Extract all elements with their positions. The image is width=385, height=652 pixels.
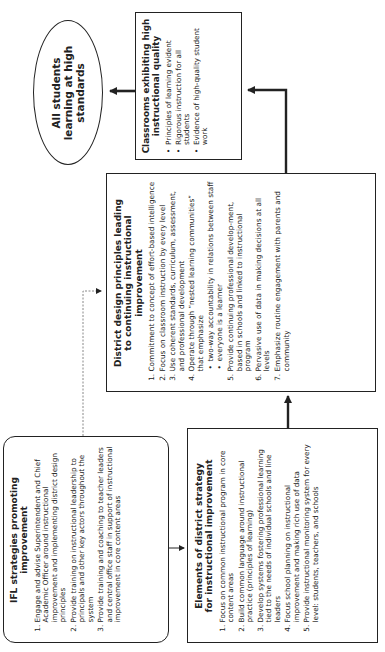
list-item-text: Operate through “nested learning communi… (187, 194, 205, 371)
elements-node: Elements of district strategy for instru… (187, 428, 378, 643)
sub-bullet: two-way accountability in relations betw… (207, 180, 216, 361)
classrooms-node: Classrooms exhibiting high instructional… (135, 12, 242, 160)
arrow-district-to-classrooms (248, 90, 286, 173)
list-item: Focus on classroom instruction by every … (159, 180, 168, 371)
list-item: Develop systems fostering professional l… (256, 435, 281, 622)
district-sub-bullets: two-way accountability in relations betw… (207, 180, 225, 371)
goal-title: All students learning at high standards (50, 23, 86, 163)
district-node: District design principles leading to co… (106, 173, 376, 392)
list-item: Provide training on instructional leader… (70, 443, 95, 622)
ifl-node: IFL strategies promoting improvement Eng… (3, 436, 169, 643)
list-item: Engage and advise Superintendent and Chi… (34, 443, 68, 622)
ifl-items: Engage and advise Superintendent and Chi… (34, 443, 123, 636)
list-item: Focus on common instructional program in… (218, 435, 235, 622)
arrow-ifl-to-district-dotted (83, 291, 101, 436)
list-item: Focus school planning on instructional i… (283, 435, 300, 622)
classrooms-title: Classrooms exhibiting high instructional… (140, 17, 160, 155)
list-item: Build common language around instruction… (237, 435, 254, 622)
list-item: Evidence of high-quality student work (192, 17, 209, 145)
list-item: Provide training and coaching to teacher… (97, 443, 122, 622)
list-item: Use coherent standards, curriculum, asse… (169, 180, 186, 371)
sub-bullet: everyone is a learner (216, 180, 225, 361)
goal-node: All students learning at high standards (33, 20, 103, 165)
list-item: Commitment to concept of effort-based in… (148, 180, 157, 371)
district-items: Commitment to concept of effort-based in… (148, 180, 291, 385)
list-item: Pervasive use of data in making decision… (255, 180, 272, 371)
elements-items: Focus on common instructional program in… (218, 435, 319, 636)
district-title: District design principles leading to co… (113, 180, 144, 385)
ifl-title: IFL strategies promoting improvement (9, 443, 30, 636)
list-item: Provide instructional monitoring system … (302, 435, 319, 622)
list-item: Rigorous instruction for all students (174, 17, 191, 145)
elements-title: Elements of district strategy for instru… (193, 435, 214, 636)
list-item: Principles of learning evident (164, 17, 172, 145)
classrooms-bullets: Principles of learning evident Rigorous … (164, 17, 208, 155)
list-item: Operate through “nested learning communi… (188, 180, 224, 371)
list-item: Provide continuing professional develop-… (227, 180, 253, 371)
list-item: Emphasize routine engagement with parent… (274, 180, 291, 371)
